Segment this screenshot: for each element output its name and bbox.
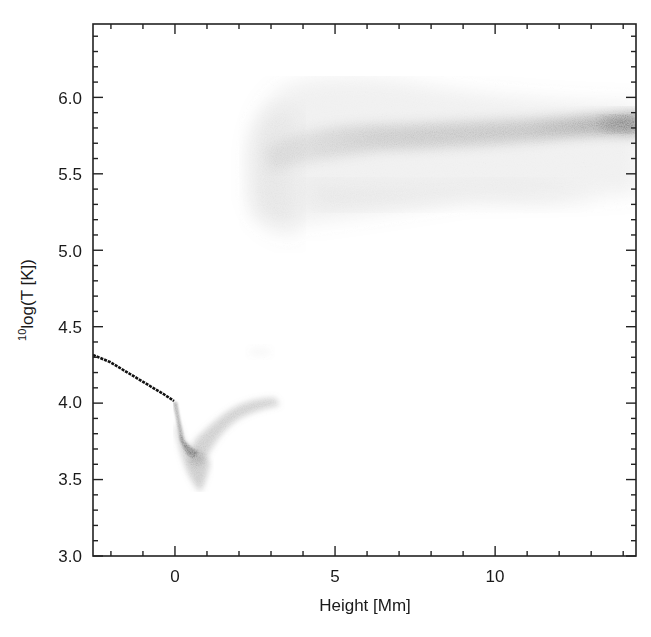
y-tick-label: 5.0 — [58, 242, 82, 261]
y-tick-label: 5.5 — [58, 165, 82, 184]
y-tick-label: 3.5 — [58, 470, 82, 489]
svg-text:10log(T [K]): 10log(T [K]) — [16, 259, 37, 341]
y-axis-title-text: log(T [K]) — [18, 259, 37, 329]
x-tick-labels: 0 5 10 — [170, 567, 504, 586]
y-tick-label: 6.0 — [58, 89, 82, 108]
x-tick-label: 0 — [170, 567, 179, 586]
x-axis-title: Height [Mm] — [319, 596, 411, 615]
y-axis-title: 10log(T [K]) — [16, 259, 37, 341]
plot-area — [93, 76, 644, 492]
y-axis-title-superscript: 10 — [16, 329, 28, 341]
y-tick-label: 3.0 — [58, 547, 82, 566]
x-tick-label: 5 — [330, 567, 339, 586]
y-tick-labels: 3.0 3.5 4.0 4.5 5.0 5.5 6.0 — [58, 89, 82, 566]
chromosphere-rise — [190, 398, 280, 465]
density-plot: 0 5 10 3.0 3.5 4.0 4.5 5.0 5.5 6.0 Heigh… — [0, 0, 651, 637]
photosphere-line — [93, 355, 174, 401]
y-tick-label: 4.0 — [58, 393, 82, 412]
y-tick-label: 4.5 — [58, 318, 82, 337]
x-tick-label: 10 — [486, 567, 505, 586]
